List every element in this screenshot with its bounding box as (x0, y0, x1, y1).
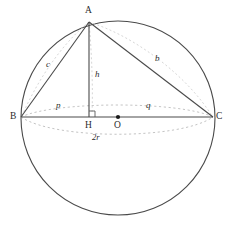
label-center-o: O (114, 121, 121, 131)
label-vertex-c: C (216, 112, 222, 122)
segment-ab (21, 22, 89, 117)
label-diameter-2r: 2r (92, 133, 100, 142)
label-side-c: c (46, 60, 50, 69)
geometry-canvas (0, 0, 237, 230)
label-segment-p: p (56, 101, 61, 110)
label-vertex-a: A (85, 6, 92, 16)
geometry-figure: A B C H O c b h p q 2r (0, 0, 237, 230)
label-side-b: b (155, 54, 160, 63)
label-altitude-h: h (95, 70, 100, 79)
segment-ac (89, 22, 213, 117)
label-vertex-b: B (10, 112, 16, 122)
label-segment-q: q (146, 101, 151, 110)
center-dot (116, 115, 120, 119)
label-point-h: H (85, 121, 92, 131)
